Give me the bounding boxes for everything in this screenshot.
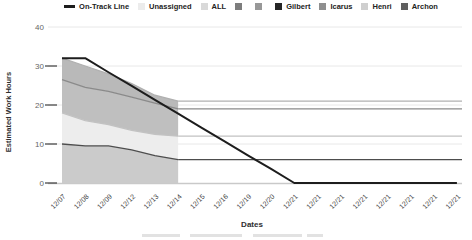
- x-tick-label-13: 12/21: [351, 193, 368, 210]
- footer-fragment: [253, 234, 302, 237]
- x-tick-label-4: 12/13: [142, 193, 159, 210]
- y-tick-label-10: 10: [35, 140, 44, 149]
- x-tick-label-0: 12/07: [49, 193, 66, 210]
- y-tick-label-0: 0: [40, 179, 45, 188]
- x-tick-label-3: 12/12: [119, 193, 136, 210]
- x-tick-label-11: 12/21: [305, 193, 322, 210]
- x-tick-label-15: 12/21: [398, 193, 415, 210]
- footer-fragment: [307, 234, 323, 237]
- x-tick-label-10: 12/21: [282, 193, 299, 210]
- x-tick-label-8: 12/19: [235, 193, 252, 210]
- footer-fragment: [142, 234, 180, 237]
- x-tick-label-2: 12/09: [96, 193, 113, 210]
- x-axis-title: Dates: [241, 220, 263, 229]
- burndown-chart: On-Track LineUnassignedALLGilbertIcarusH…: [0, 0, 472, 240]
- y-tick-label-30: 30: [35, 62, 44, 71]
- y-tick-label-20: 20: [35, 101, 44, 110]
- x-tick-label-6: 12/15: [189, 193, 206, 210]
- x-tick-label-16: 12/21: [421, 193, 438, 210]
- x-tick-label-14: 12/21: [375, 193, 392, 210]
- x-tick-label-1: 12/08: [73, 193, 90, 210]
- x-tick-label-7: 12/16: [212, 193, 229, 210]
- y-tick-label-40: 40: [35, 23, 44, 32]
- x-tick-label-12: 12/21: [328, 193, 345, 210]
- x-tick-label-9: 12/20: [258, 193, 275, 210]
- y-axis-title: Estimated Work Hours: [4, 72, 13, 152]
- x-tick-label-17: 12/21: [444, 193, 461, 210]
- chart-plot-area: 01020304012/0712/0812/0912/1212/1312/141…: [0, 0, 472, 240]
- x-tick-label-5: 12/14: [166, 193, 183, 210]
- footer-fragment: [190, 234, 242, 237]
